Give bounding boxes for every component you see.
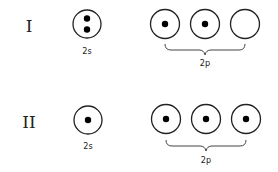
orbital-2s-row1	[73, 10, 101, 38]
label-2p-row1: 2p	[200, 58, 210, 68]
electron	[84, 26, 90, 32]
orbital-2s-row2	[74, 106, 102, 134]
electron	[85, 117, 91, 123]
electron	[243, 116, 249, 122]
row-1: I 2s 2p	[26, 10, 260, 69]
brace-2p-row2	[166, 140, 246, 151]
electron	[163, 116, 169, 122]
label-2p-row2: 2p	[201, 155, 211, 165]
electron	[84, 15, 90, 21]
label-2s-row2: 2s	[83, 141, 92, 151]
orbital-2p-row2	[152, 105, 261, 134]
orbital-2p-row1	[151, 10, 260, 39]
row-label-1: I	[26, 16, 33, 36]
electron	[203, 116, 209, 122]
electron	[202, 21, 208, 27]
row-label-2: II	[22, 112, 35, 132]
electron	[162, 21, 168, 27]
row-2: II 2s 2p	[22, 105, 260, 166]
orbital-diagram: I 2s 2p II 2s	[0, 0, 278, 172]
brace-2p-row1	[165, 44, 245, 55]
label-2s-row1: 2s	[82, 46, 91, 56]
